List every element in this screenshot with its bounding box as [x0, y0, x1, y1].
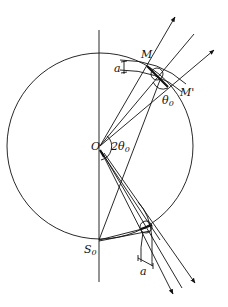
chord-s0-to-top — [99, 80, 160, 240]
width-marker-top — [121, 61, 127, 74]
label-theta0: θ0 — [162, 94, 174, 108]
label-o: O — [91, 140, 100, 153]
label-m-prime: M' — [179, 86, 194, 99]
label-width-top: a — [114, 62, 121, 75]
label-width-bottom: a — [140, 265, 147, 278]
rays-from-center-bottom — [101, 151, 195, 294]
label-s0: S0 — [84, 243, 97, 257]
bottom-arc-inner — [141, 232, 143, 262]
chord-s0-to-bottom — [99, 228, 146, 240]
diagram-canvas: M M' a θ0 O 2θ0 S0 a — [0, 0, 228, 307]
rays-from-center-top — [100, 17, 214, 146]
label-2theta0: 2θ0 — [110, 140, 130, 154]
label-m: M — [140, 48, 153, 61]
